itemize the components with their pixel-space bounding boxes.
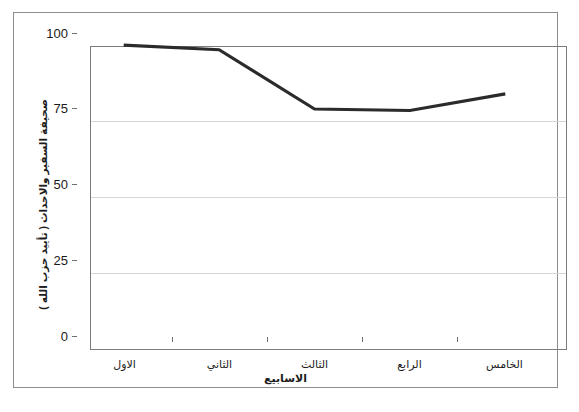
y-axis-title: صحيفة السفير والاحداث ( تأييد حزب الله ): [32, 109, 54, 299]
y-tick-mark-50: [72, 184, 77, 185]
x-tick-mark-3: [362, 337, 363, 342]
y-tick-mark-100: [72, 33, 77, 34]
x-tick-label-1: الاول: [77, 358, 172, 371]
gridline-75: [91, 121, 566, 122]
x-tick-label-2: الثاني: [172, 358, 267, 371]
x-tick-mark-4: [457, 337, 458, 342]
y-tick-mark-25: [72, 260, 77, 261]
y-tick-label-0: 0: [34, 330, 68, 343]
y-axis-title-text: صحيفة السفير والاحداث ( تأييد حزب الله ): [37, 99, 49, 310]
x-tick-mark-2: [267, 337, 268, 342]
plot-area: [90, 46, 567, 350]
x-axis-title: الاسابيع: [14, 372, 557, 385]
y-tick-mark-75: [72, 108, 77, 109]
x-tick-mark-1: [172, 337, 173, 342]
chart-outer-frame: 100 75 50 25 0 صحيفة السفير والاحداث ( ت…: [13, 12, 558, 388]
gridline-25: [91, 273, 566, 274]
y-tick-mark-0: [72, 336, 77, 337]
y-tick-label-100: 100: [34, 27, 68, 40]
x-tick-label-5: الخامس: [457, 358, 552, 371]
x-tick-label-3: الثالث: [267, 358, 362, 371]
x-tick-label-4: الرابع: [362, 358, 457, 371]
gridline-50: [91, 197, 566, 198]
